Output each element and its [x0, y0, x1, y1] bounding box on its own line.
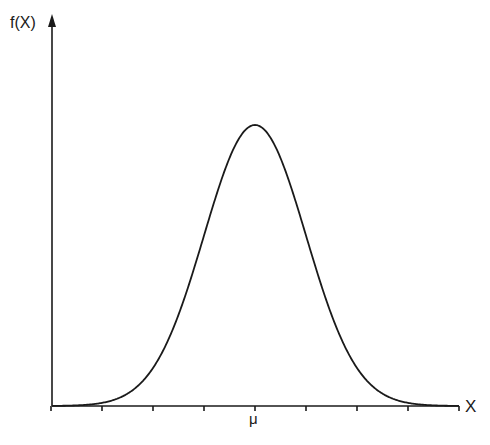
y-axis-label: f(X): [10, 14, 36, 32]
y-axis-arrow-icon: [48, 14, 56, 27]
x-axis-label: X: [465, 397, 476, 417]
normal-curve: [52, 125, 459, 406]
normal-distribution-chart: [0, 0, 490, 445]
mu-tick-label: μ: [249, 410, 258, 427]
axes: [48, 14, 459, 411]
